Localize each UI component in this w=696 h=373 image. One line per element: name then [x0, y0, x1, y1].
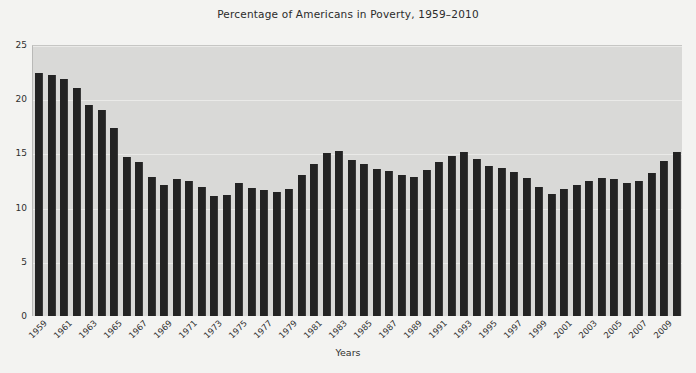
bar-1978	[273, 192, 281, 316]
y-axis: 0510152025	[0, 45, 32, 316]
x-axis-tick-1981: 1981	[302, 318, 324, 340]
bar-1975	[235, 183, 243, 316]
bar-1976	[248, 188, 256, 316]
bar-1972	[198, 187, 206, 316]
bar-1964	[98, 110, 106, 316]
bar-1997	[510, 172, 518, 316]
bar-1990	[423, 170, 431, 316]
bar-1999	[535, 187, 543, 316]
x-axis-tick-1987: 1987	[377, 318, 399, 340]
bar-1998	[523, 178, 531, 316]
bar-2004	[598, 178, 606, 316]
bar-1983	[335, 151, 343, 316]
bar-1987	[385, 171, 393, 316]
bar-series	[33, 46, 682, 316]
y-axis-tick-25: 25	[16, 40, 27, 50]
bar-1968	[148, 177, 156, 316]
bar-1986	[373, 169, 381, 316]
page-title: Percentage of Americans in Poverty, 1959…	[0, 8, 696, 20]
x-axis-tick-1963: 1963	[77, 318, 99, 340]
bar-2006	[623, 183, 631, 316]
bar-1967	[135, 162, 143, 316]
x-axis-tick-2001: 2001	[552, 318, 574, 340]
bar-2010	[673, 152, 681, 316]
bar-1973	[210, 196, 218, 316]
bar-2005	[610, 179, 618, 316]
y-axis-tick-10: 10	[16, 203, 27, 213]
plot-inner	[33, 46, 682, 316]
bar-2001	[560, 189, 568, 316]
bar-2008	[648, 173, 656, 316]
bar-1963	[85, 105, 93, 316]
bar-1979	[285, 189, 293, 316]
x-axis-tick-1997: 1997	[502, 318, 524, 340]
bar-1971	[185, 181, 193, 317]
y-axis-tick-15: 15	[16, 148, 27, 158]
x-axis-tick-1959: 1959	[27, 318, 49, 340]
x-axis-tick-1985: 1985	[352, 318, 374, 340]
bar-1974	[223, 195, 231, 316]
x-axis-tick-2005: 2005	[602, 318, 624, 340]
chart-figure: Percentage of Americans in Poverty, 1959…	[0, 0, 696, 373]
bar-1981	[310, 164, 318, 316]
bar-1995	[485, 166, 493, 316]
x-axis-tick-1979: 1979	[277, 318, 299, 340]
bar-1988	[398, 175, 406, 316]
x-axis-tick-1973: 1973	[202, 318, 224, 340]
bar-1982	[323, 153, 331, 316]
y-axis-tick-0: 0	[21, 311, 27, 321]
x-axis-tick-1999: 1999	[527, 318, 549, 340]
x-axis-tick-1995: 1995	[477, 318, 499, 340]
x-axis-tick-1965: 1965	[102, 318, 124, 340]
bar-2000	[548, 194, 556, 316]
x-axis-tick-2003: 2003	[577, 318, 599, 340]
x-axis-tick-1989: 1989	[402, 318, 424, 340]
x-axis-tick-1967: 1967	[127, 318, 149, 340]
bar-1960	[48, 75, 56, 316]
bar-2009	[660, 161, 668, 316]
x-axis-tick-1961: 1961	[52, 318, 74, 340]
x-axis-tick-2009: 2009	[652, 318, 674, 340]
x-axis-tick-1969: 1969	[152, 318, 174, 340]
bar-2003	[585, 181, 593, 317]
bar-1992	[448, 156, 456, 316]
bar-1984	[348, 160, 356, 316]
bar-1969	[160, 185, 168, 316]
bar-1994	[473, 159, 481, 316]
bar-1977	[260, 190, 268, 316]
bar-1985	[360, 164, 368, 316]
x-axis-label: Years	[0, 347, 696, 358]
bar-1970	[173, 179, 181, 316]
x-axis-tick-1977: 1977	[252, 318, 274, 340]
x-axis-tick-1983: 1983	[327, 318, 349, 340]
bar-1965	[110, 128, 118, 316]
y-axis-tick-5: 5	[21, 257, 27, 267]
bar-2007	[635, 181, 643, 317]
bar-1959	[35, 73, 43, 316]
x-axis-tick-2007: 2007	[627, 318, 649, 340]
x-axis-tick-1991: 1991	[427, 318, 449, 340]
bar-1989	[410, 177, 418, 316]
x-axis-tick-1993: 1993	[452, 318, 474, 340]
bar-1996	[498, 168, 506, 317]
bar-1961	[60, 79, 68, 316]
y-axis-tick-20: 20	[16, 94, 27, 104]
bar-2002	[573, 185, 581, 316]
bar-1980	[298, 175, 306, 316]
bar-1962	[73, 88, 81, 316]
x-axis-tick-1971: 1971	[177, 318, 199, 340]
x-axis-tick-1975: 1975	[227, 318, 249, 340]
bar-1966	[123, 157, 131, 316]
bar-1993	[460, 152, 468, 316]
bar-1991	[435, 162, 443, 316]
plot-area	[32, 45, 682, 316]
